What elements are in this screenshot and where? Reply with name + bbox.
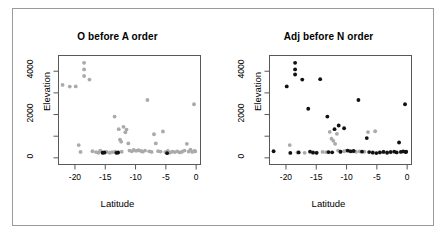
plot-area (269, 55, 412, 165)
y-axis-label: Elevation (252, 52, 263, 132)
panel-title: Adj before N order (223, 31, 434, 42)
y-tick-label: 2000 (25, 95, 35, 131)
x-tick-label: -5 (362, 172, 392, 182)
scatter-plot-o-before-a (59, 56, 200, 164)
plot-area (58, 55, 201, 165)
x-tick-label: -15 (90, 172, 120, 182)
figure-container: O before A order Elevation Latitude 0200… (0, 0, 446, 238)
x-tick-label: 0 (392, 172, 422, 182)
y-tick-label: 0 (25, 138, 35, 174)
x-tick-label: -5 (151, 172, 181, 182)
panel-adj-before-n: Adj before N order Elevation Latitude 02… (223, 8, 434, 226)
x-tick-label: 0 (181, 172, 211, 182)
x-tick-label: -10 (121, 172, 151, 182)
y-tick-label: 4000 (25, 51, 35, 87)
y-tick-label: 2000 (236, 95, 246, 131)
x-tick-label: -20 (60, 172, 90, 182)
panel-title: O before A order (12, 31, 223, 42)
scatter-plot-adj-before-n (270, 56, 411, 164)
x-axis-label: Latitude (223, 198, 434, 209)
y-tick-label: 0 (236, 138, 246, 174)
x-tick-label: -15 (301, 172, 331, 182)
x-tick-label: -20 (271, 172, 301, 182)
panel-o-before-a: O before A order Elevation Latitude 0200… (12, 8, 223, 226)
x-axis-label: Latitude (12, 198, 223, 209)
y-tick-label: 4000 (236, 51, 246, 87)
y-axis-label: Elevation (41, 52, 52, 132)
x-tick-label: -10 (332, 172, 362, 182)
